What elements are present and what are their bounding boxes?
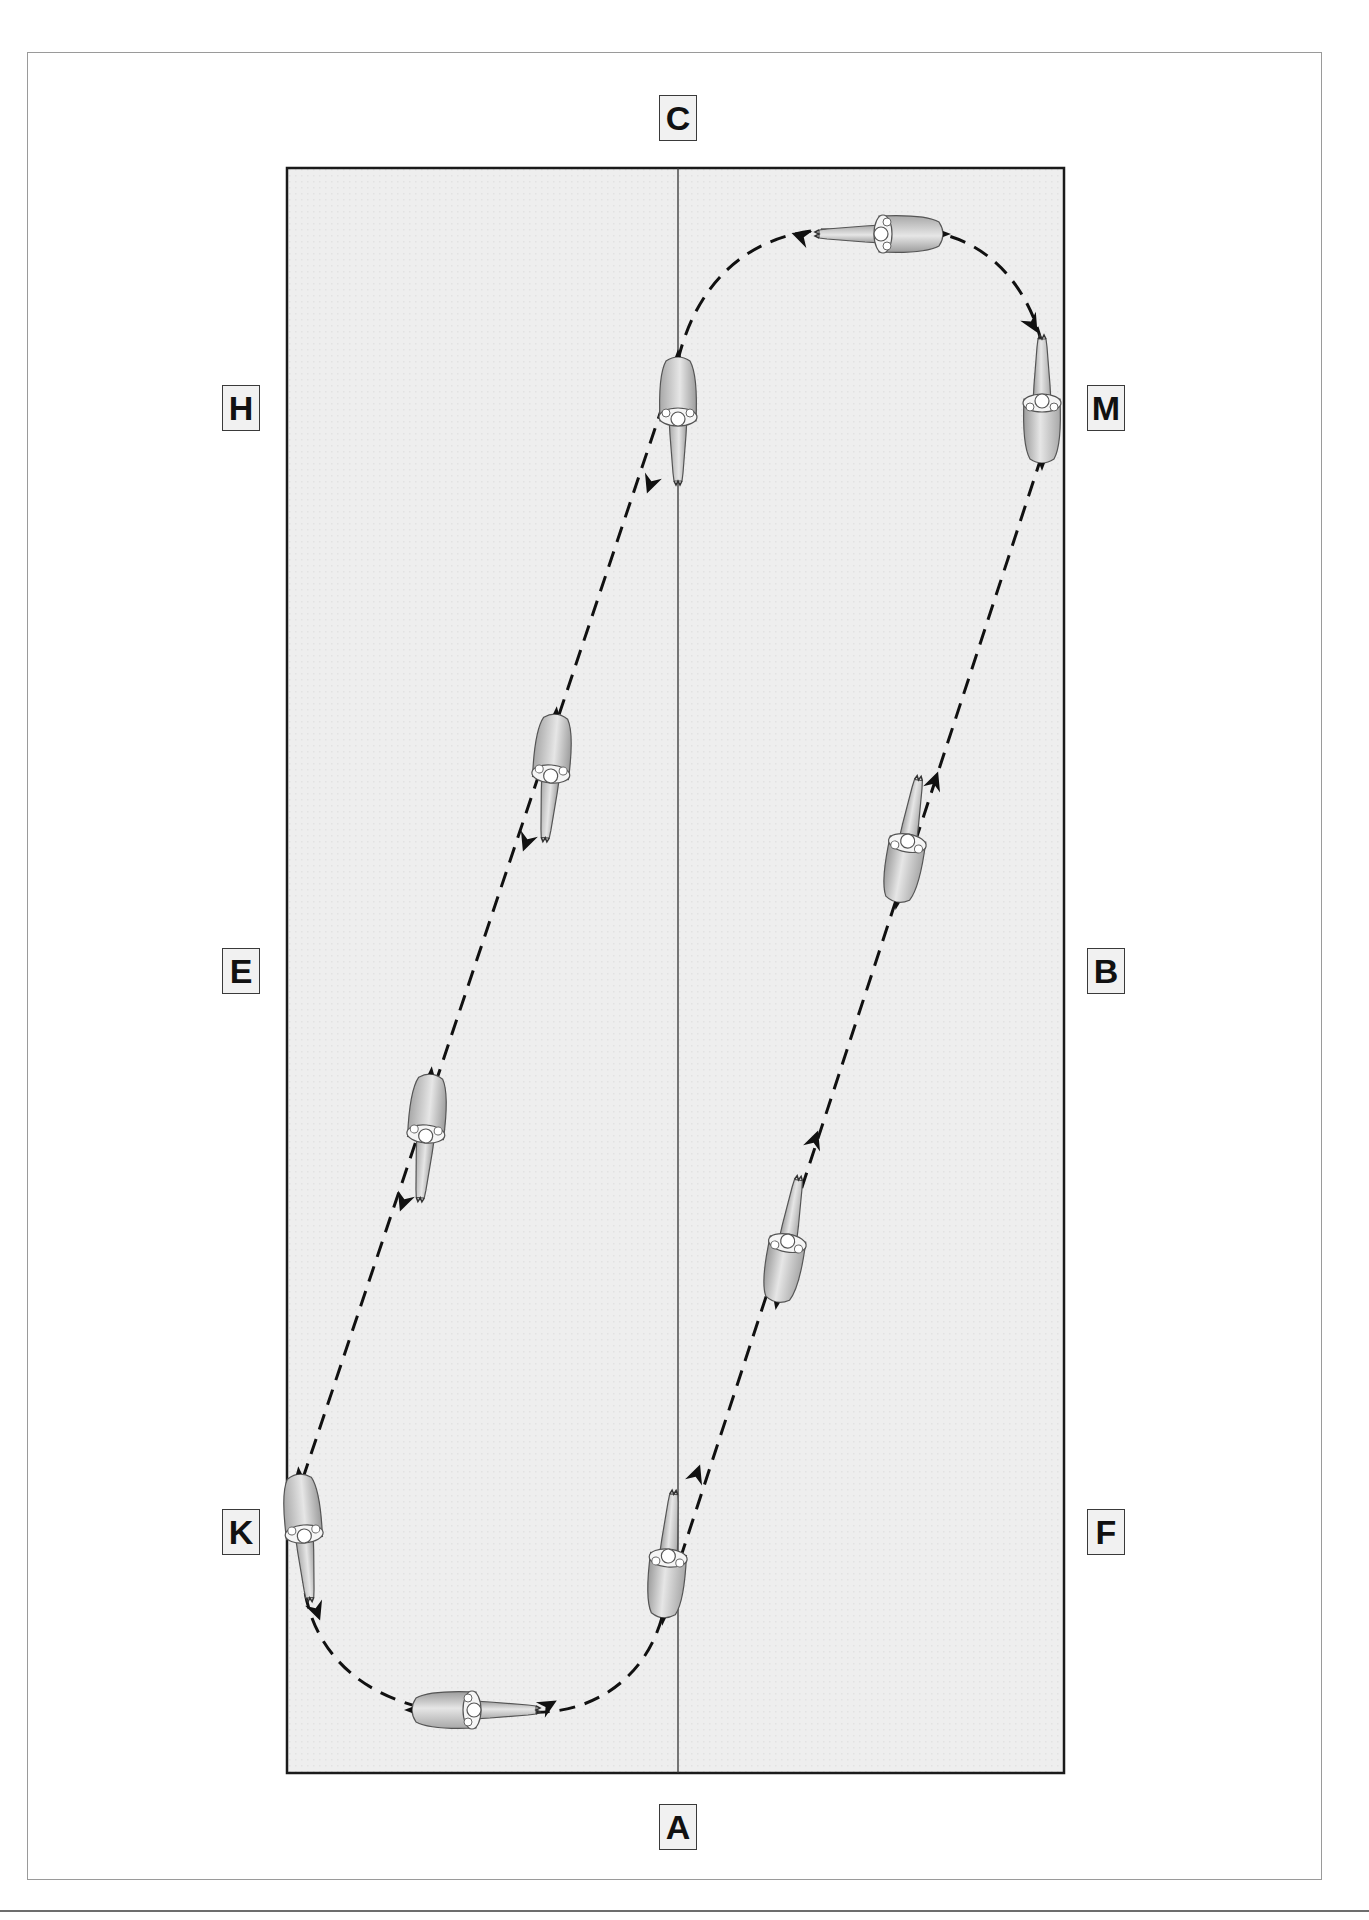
marker-h: H <box>222 385 260 431</box>
marker-a: A <box>659 1804 697 1850</box>
marker-b: B <box>1087 948 1125 994</box>
marker-c: C <box>659 95 697 141</box>
marker-e: E <box>222 948 260 994</box>
arena-diagram <box>0 0 1369 1920</box>
marker-f: F <box>1087 1509 1125 1555</box>
marker-k: K <box>222 1509 260 1555</box>
marker-m: M <box>1087 385 1125 431</box>
